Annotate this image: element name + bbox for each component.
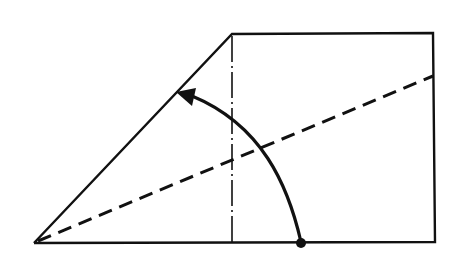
paper-outline (34, 33, 435, 243)
valley-fold-line (38, 76, 433, 241)
diagram-svg (0, 0, 453, 256)
origami-diagram (0, 0, 453, 256)
start-dot-icon (296, 238, 306, 248)
